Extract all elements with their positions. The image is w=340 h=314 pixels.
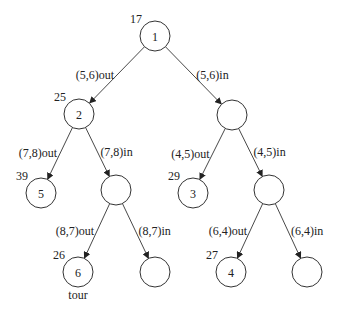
edge-label: (4,5)out <box>171 147 210 161</box>
node-circle <box>140 257 170 287</box>
edge-label: (7,8)out <box>19 146 58 160</box>
tree-node: 225 <box>54 90 94 129</box>
node-number: 2 <box>76 108 82 122</box>
tree-node: 427 <box>206 248 246 287</box>
tree-node <box>101 175 131 205</box>
edge-label: (6,4)in <box>291 224 323 238</box>
node-circle <box>292 257 322 287</box>
node-number: 6 <box>75 266 81 280</box>
edge-label: (8,7)out <box>56 224 95 238</box>
node-number: 3 <box>190 187 196 201</box>
node-number: 5 <box>38 187 44 201</box>
tree-node <box>292 257 322 287</box>
node-number: 4 <box>228 266 234 280</box>
edge-label: (4,5)in <box>253 145 285 159</box>
node-circle <box>101 175 131 205</box>
node-circle <box>217 100 247 130</box>
edge-label: (7,8)in <box>100 145 132 159</box>
edge-label: (6,4)out <box>209 224 248 238</box>
tree-node: 117 <box>130 12 170 51</box>
node-cost-bound: 27 <box>206 248 218 262</box>
tree-node <box>254 175 284 205</box>
branch-and-bound-tree: (5,6)out(5,6)in(7,8)out(7,8)in(4,5)out(4… <box>0 0 340 314</box>
edge-label: (8,7)in <box>138 224 170 238</box>
node-cost-bound: 39 <box>16 169 28 183</box>
node-cost-bound: 17 <box>130 12 142 26</box>
node-circle <box>254 175 284 205</box>
node-cost-bound: 26 <box>53 248 65 262</box>
node-cost-bound: 25 <box>54 90 66 104</box>
edge-label: (5,6)in <box>196 68 228 82</box>
edges: (5,6)out(5,6)in(7,8)out(7,8)in(4,5)out(4… <box>19 47 323 258</box>
tree-node: 626tour <box>53 248 93 302</box>
tree-node <box>140 257 170 287</box>
node-note: tour <box>68 288 87 302</box>
node-cost-bound: 29 <box>168 169 180 183</box>
tree-node <box>217 100 247 130</box>
node-number: 1 <box>152 30 158 44</box>
edge-label: (5,6)out <box>76 68 115 82</box>
